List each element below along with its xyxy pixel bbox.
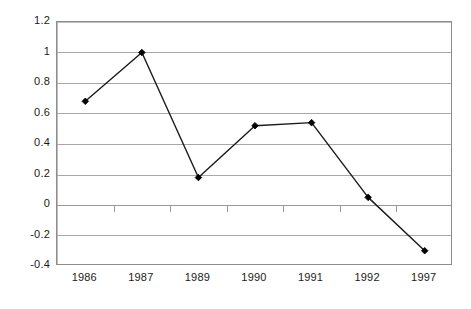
series-line <box>85 53 424 251</box>
y-axis-tick-label: 1.2 <box>4 15 50 26</box>
y-axis-tick-label: 0.6 <box>4 107 50 118</box>
y-axis-tick-label: 1 <box>4 46 50 57</box>
x-axis-tick-label: 1990 <box>226 271 283 284</box>
x-axis-tick-label: 1992 <box>339 271 396 284</box>
y-axis-labels: 1.210.80.60.40.20-0.2-0.4 <box>0 0 50 309</box>
plot-area <box>56 21 452 265</box>
series-markers <box>82 49 428 254</box>
x-axis-labels: 1986198719891990199119921997 <box>56 271 452 291</box>
x-axis-tick-label: 1991 <box>282 271 339 284</box>
x-axis-tick-label: 1997 <box>395 271 452 284</box>
y-axis-tick-label: 0.4 <box>4 137 50 148</box>
y-axis-tick-label: 0.2 <box>4 168 50 179</box>
line-chart: 1.210.80.60.40.20-0.2-0.4 19861987198919… <box>0 0 471 309</box>
data-series <box>57 22 453 266</box>
y-axis-tick-label: -0.4 <box>4 259 50 270</box>
y-axis-tick-label: 0.8 <box>4 76 50 87</box>
x-axis-tick-label: 1987 <box>113 271 170 284</box>
y-axis-tick-label: 0 <box>4 198 50 209</box>
x-axis-tick-label: 1989 <box>169 271 226 284</box>
x-axis-tick-label: 1986 <box>56 271 113 284</box>
y-axis-tick-label: -0.2 <box>4 229 50 240</box>
